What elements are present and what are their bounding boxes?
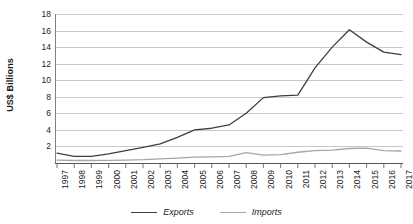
x-axis-tick-label: 2003 — [164, 170, 173, 189]
x-axis-tick-label: 2001 — [130, 170, 139, 189]
x-axis-tick-label: 2004 — [181, 170, 190, 189]
x-axis-tick-label: 2002 — [147, 170, 156, 189]
x-axis-tick-label: 1998 — [78, 170, 87, 189]
legend-item-imports[interactable]: Imports — [220, 207, 282, 217]
x-axis-tick-label: 2017 — [405, 170, 413, 189]
legend-swatch-exports — [131, 212, 157, 213]
x-axis-ticks — [55, 163, 405, 169]
series-layer — [55, 14, 403, 164]
y-axis-tick-label: 4 — [31, 126, 51, 135]
x-axis-tick-label: 1997 — [61, 170, 70, 189]
chart-legend: ExportsImports — [0, 203, 413, 221]
y-axis-tick-label: 2 — [31, 142, 51, 151]
y-axis-tick-label: 16 — [31, 27, 51, 36]
y-axis-tick-label: 12 — [31, 60, 51, 69]
x-axis-tick-label: 2005 — [199, 170, 208, 189]
plot-area — [55, 14, 403, 164]
x-axis-tick-label: 2016 — [388, 170, 397, 189]
y-axis-tick-label: 14 — [31, 43, 51, 52]
x-axis-tick-label: 2008 — [250, 170, 259, 189]
y-axis-title: US$ Billions — [0, 0, 20, 170]
x-axis-tick-label: 2012 — [319, 170, 328, 189]
x-axis-tick-label: 2015 — [371, 170, 380, 189]
legend-label: Imports — [252, 207, 282, 217]
x-axis-tick-label: 2011 — [302, 170, 311, 188]
x-axis-tick-label: 2000 — [113, 170, 122, 189]
x-axis-tick-label: 2014 — [353, 170, 362, 189]
y-axis-tick-label: 18 — [31, 10, 51, 19]
legend-item-exports[interactable]: Exports — [131, 207, 194, 217]
x-axis-tick-label: 2010 — [285, 170, 294, 189]
x-axis-tick-label: 2013 — [336, 170, 345, 189]
x-axis-tick-label: 2009 — [267, 170, 276, 189]
y-axis-tick-label: 6 — [31, 109, 51, 118]
legend-label: Exports — [163, 207, 194, 217]
x-axis-tick-labels: 1997199819992000200120022003200420052006… — [55, 170, 403, 204]
y-axis-title-label: US$ Billions — [5, 58, 15, 112]
y-axis-tick-label: 8 — [31, 93, 51, 102]
y-axis-tick-labels: 18161412108642 — [29, 0, 51, 224]
line-chart: US$ Billions 18161412108642 199719981999… — [0, 0, 413, 224]
x-axis-tick-label: 2007 — [233, 170, 242, 189]
series-line-exports — [57, 30, 401, 157]
legend-swatch-imports — [220, 212, 246, 213]
x-axis-tick-label: 1999 — [95, 170, 104, 189]
x-axis-tick-label: 2006 — [216, 170, 225, 189]
y-axis-tick-label: 10 — [31, 76, 51, 85]
